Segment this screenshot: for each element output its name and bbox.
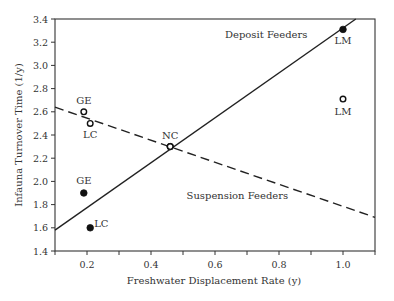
point-label-ge: GE [76,175,91,186]
y-tick-label: 2.2 [33,153,48,164]
y-tick-label: 3.0 [33,60,48,71]
annotations: Deposit Feeders Suspension Feeders [187,29,308,201]
y-axis-title: Infauna Turnover Time (1/y) [13,63,24,207]
y-tick-label: 3.2 [33,37,48,48]
y-tick-label: 3.4 [33,14,48,25]
open-point-lm [340,96,346,102]
open-point-ge [81,109,87,115]
scatter-chart: 0.20.40.60.81.0 1.41.61.82.02.22.42.62.8… [0,0,394,301]
point-label-ge: GE [76,95,91,106]
filled-point-ge [81,190,88,197]
point-label-lc: LC [83,129,98,140]
y-tick-label: 2.6 [33,106,48,117]
point-label-lc: LC [94,218,109,229]
suspension-feeders-fit-line [55,107,375,217]
open-point-nc [167,144,173,150]
point-label-nc: NC [162,130,179,141]
x-axis-ticks: 0.20.40.60.81.0 [55,251,375,270]
y-tick-label: 2.8 [33,83,48,94]
x-tick-label: 1.0 [335,259,350,270]
deposit-feeders-label: Deposit Feeders [225,29,307,40]
y-tick-label: 1.8 [33,199,48,210]
x-tick-label: 0.4 [143,259,158,270]
x-tick-label: 0.2 [79,259,94,270]
y-axis-ticks: 1.41.61.82.02.22.42.62.83.03.23.4 [33,14,55,257]
point-label-lm: LM [335,106,352,117]
x-tick-label: 0.8 [271,259,286,270]
y-tick-label: 1.4 [33,246,48,257]
y-tick-label: 2.4 [33,130,48,141]
filled-point-lc [87,225,94,232]
open-point-lc [87,121,93,127]
suspension-feeders-label: Suspension Feeders [187,190,289,201]
point-label-lm: LM [335,35,352,46]
y-tick-label: 1.6 [33,222,48,233]
plot-border [55,19,375,251]
x-axis-title: Freshwater Displacement Rate (y) [127,275,301,286]
y-tick-label: 2.0 [33,176,48,187]
x-tick-label: 0.6 [207,259,222,270]
plot-frame [55,19,375,251]
filled-point-lm [340,26,347,33]
